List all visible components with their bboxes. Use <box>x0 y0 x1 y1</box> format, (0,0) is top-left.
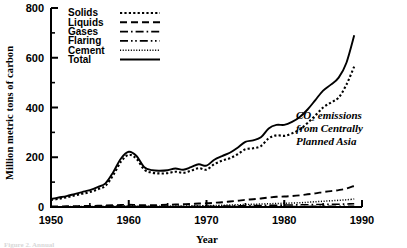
chart-svg: Million metric tons of carbon 0200400600… <box>0 0 407 248</box>
annotation-line-3: Planned Asia <box>296 135 357 147</box>
legend-label-total: Total <box>68 54 91 65</box>
y-tick-label: 600 <box>26 52 44 64</box>
y-tick-label: 400 <box>26 102 44 114</box>
y-tick-label: 800 <box>26 2 44 14</box>
x-tick-label: 1950 <box>39 214 63 226</box>
figure-caption: Figure 2. Annual <box>4 241 54 248</box>
x-axis-title: Year <box>196 233 218 245</box>
annotation-line-2: from Centrally <box>296 122 363 134</box>
y-tick-label: 0 <box>38 201 44 213</box>
x-tick-label: 1970 <box>194 214 218 226</box>
y-tick-label: 200 <box>26 151 44 163</box>
annotation-line-1: CO₂ emissions <box>296 109 362 121</box>
x-tick-label: 1990 <box>350 214 374 226</box>
x-tick-label: 1980 <box>272 214 296 226</box>
y-axis-title: Million metric tons of carbon <box>4 46 15 180</box>
x-tick-label: 1960 <box>117 214 141 226</box>
chart-figure: Million metric tons of carbon 0200400600… <box>0 0 407 248</box>
chart-annotation: CO₂ emissions from Centrally Planned Asi… <box>296 109 363 147</box>
